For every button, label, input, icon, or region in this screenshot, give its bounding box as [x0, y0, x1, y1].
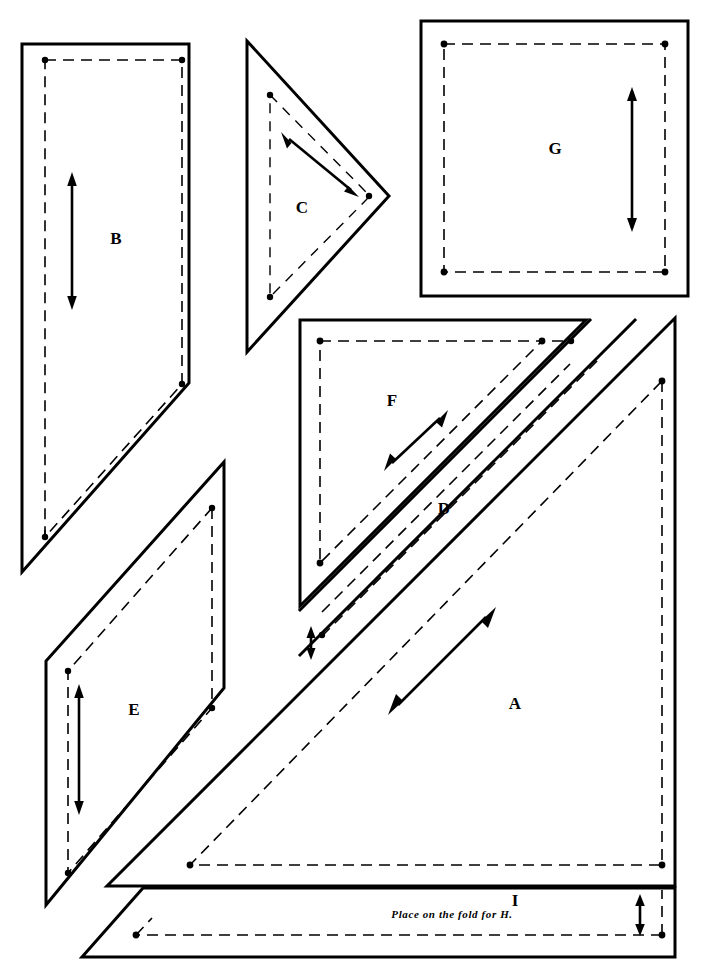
piece-g-label: G [548, 139, 561, 158]
piece-f-label: F [387, 391, 397, 410]
piece-e-group[interactable]: E [46, 462, 224, 905]
piece-d-group[interactable]: D [300, 320, 635, 660]
piece-a-grain-arrow [388, 607, 496, 715]
piece-a-seam-dot [187, 862, 194, 869]
pattern-diagram: B C G [0, 0, 709, 971]
piece-e-seam-dot [209, 505, 215, 511]
piece-e-seam-dot [209, 705, 215, 711]
piece-b-seam-dot [42, 57, 48, 63]
piece-e-seam-dot [65, 870, 71, 876]
piece-i-label: I [512, 891, 519, 910]
piece-i-cut-line [82, 888, 675, 957]
piece-d-seam-line-upper [322, 364, 570, 612]
piece-c-label: C [296, 198, 308, 217]
piece-b-cut-line [22, 44, 189, 572]
piece-f-group[interactable]: F [300, 320, 586, 606]
piece-b-seam-dot [179, 57, 185, 63]
piece-g-grain-arrow [627, 87, 637, 232]
piece-g-cut-line [421, 21, 688, 296]
piece-f-seam-dot [539, 338, 546, 345]
piece-d-cut-line-upper [300, 320, 590, 610]
piece-g-seam-dot [662, 269, 669, 276]
piece-g-group[interactable]: G [421, 21, 688, 296]
piece-a-label: A [509, 694, 522, 713]
piece-d-grain-arrow [307, 626, 316, 660]
piece-b-seam-dot [42, 534, 48, 540]
piece-g-seam-dot [441, 269, 448, 276]
piece-a-seam-dot [659, 862, 666, 869]
piece-f-cut-line [300, 320, 586, 606]
piece-d-label: D [438, 499, 450, 518]
piece-i-seam-line-left [136, 918, 152, 935]
piece-g-seam-dot [662, 41, 669, 48]
piece-e-cut-line [46, 462, 224, 905]
piece-e-seam-dot [65, 668, 71, 674]
piece-i-group[interactable]: I Place on the fold for H. [82, 888, 675, 957]
piece-a-seam-line [190, 381, 662, 865]
piece-b-grain-arrow [67, 172, 77, 310]
piece-e-label: E [128, 700, 139, 719]
piece-a-seam-dot [659, 378, 666, 385]
piece-f-grain-arrow [384, 410, 448, 471]
piece-d-seam-line-lower [322, 358, 600, 636]
piece-b-group[interactable]: B [22, 44, 189, 572]
piece-f-seam-dot [317, 560, 324, 567]
piece-e-seam-line [68, 508, 212, 873]
piece-b-seam-dot [179, 381, 185, 387]
piece-g-seam-dot [441, 41, 448, 48]
piece-f-seam-dot [317, 338, 324, 345]
piece-b-seam-line [45, 60, 182, 537]
piece-c-seam-line [270, 95, 370, 297]
piece-i-grain-arrow [635, 894, 645, 936]
piece-e-grain-arrow [74, 684, 84, 815]
piece-b-label: B [110, 229, 121, 248]
piece-c-seam-dot [366, 193, 372, 199]
piece-f-seam-line [320, 341, 542, 563]
piece-c-group[interactable]: C [247, 41, 389, 352]
fold-note: Place on the fold for H. [391, 908, 512, 920]
piece-d-seam-dot [319, 632, 325, 638]
piece-c-seam-dot [267, 92, 273, 98]
pattern-sheet: B C G [0, 0, 709, 971]
piece-c-grain-arrow [281, 132, 359, 197]
piece-d-cut-line-lower [300, 320, 635, 655]
piece-c-seam-dot [267, 294, 273, 300]
